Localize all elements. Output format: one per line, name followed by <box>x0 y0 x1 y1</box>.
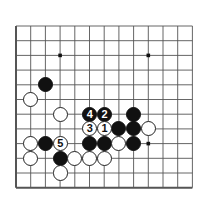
white-stone-row9-col6 <box>97 151 112 166</box>
black-stone-move-4: 4 <box>82 107 97 122</box>
move-number-label: 3 <box>87 123 93 134</box>
black-stone-row9-col3 <box>53 151 68 166</box>
move-number-label: 2 <box>101 108 107 119</box>
star-point-left-marker <box>58 54 62 58</box>
star-point-lower-right-marker <box>147 142 151 146</box>
star-point-right-marker <box>147 54 151 58</box>
black-stone-move-2: 2 <box>97 107 112 122</box>
white-stone-row9-col5 <box>82 151 97 166</box>
move-number-label: 5 <box>57 138 63 149</box>
black-stone-row8-col6 <box>97 136 112 151</box>
white-stone-row9-col1 <box>23 151 38 166</box>
move-number-label: 1 <box>101 123 107 134</box>
white-stone-move-5: 5 <box>53 136 68 151</box>
white-stone-left-inner <box>53 107 68 122</box>
go-diagram: 42315 <box>0 0 208 208</box>
move-number-label: 4 <box>87 108 93 119</box>
black-stone-upper-right-group <box>126 107 141 122</box>
white-stone-row10-col3 <box>53 165 68 180</box>
